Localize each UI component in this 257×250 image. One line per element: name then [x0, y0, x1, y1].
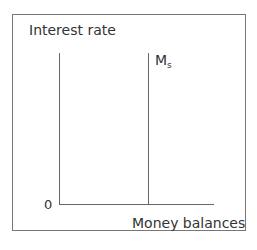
x-axis	[59, 204, 214, 205]
money-supply-label-main: M	[155, 52, 167, 68]
money-supply-line	[148, 53, 149, 205]
y-axis-label: Interest rate	[29, 22, 116, 38]
origin-label: 0	[44, 197, 52, 212]
money-supply-label: Ms	[155, 52, 172, 70]
money-supply-label-sub: s	[167, 60, 172, 70]
x-axis-label: Money balances	[132, 215, 245, 231]
y-axis	[59, 53, 60, 205]
